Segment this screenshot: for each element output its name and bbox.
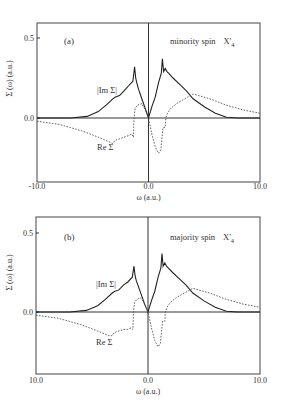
x-tick-label: 10.0 [253, 182, 267, 191]
state-subscript: 4 [231, 237, 235, 244]
x-tick-label: 10.0 [29, 376, 43, 385]
x-tick-label: 10.0 [253, 376, 267, 385]
im-sigma-label: |Im Σ| [97, 85, 117, 95]
x-tick-label: -10.0 [29, 182, 46, 191]
spin-type: minority spin [170, 36, 216, 46]
y-tick-label: 0.5 [24, 34, 34, 43]
y-tick-label: 0.0 [23, 308, 33, 317]
x-axis-label: ω (a.u.) [136, 387, 160, 396]
x-tick-label: 0.0 [143, 376, 153, 385]
state-subscript: 4 [231, 41, 235, 48]
im-sigma-label: |Im Σ| [96, 279, 116, 289]
panel-label: (a) [64, 36, 74, 46]
panel-a: 0.50.0-10.00.010.0ω (a.u.)Σ (ω) (a.u.)(a… [5, 23, 267, 202]
panel-b: 0.50.010.00.010.0ω (a.u.)Σ (ω) (a.u.)(b)… [5, 217, 267, 396]
y-axis-label: Σ (ω) (a.u.) [5, 60, 14, 96]
panel-label: (b) [64, 232, 75, 242]
re-sigma-label: Re Σ [96, 337, 113, 347]
spin-annotation: majority spinX'4 [170, 232, 235, 244]
y-tick-label: 0.5 [23, 229, 33, 238]
spin-type: majority spin [170, 232, 216, 242]
re-sigma-label: Re Σ [97, 142, 114, 152]
spin-annotation: minority spinX'4 [170, 36, 235, 48]
y-axis-label: Σ (ω) (a.u.) [5, 254, 14, 290]
x-axis-label: ω (a.u.) [136, 193, 160, 202]
y-tick-label: 0.0 [24, 114, 34, 123]
x-tick-label: 0.0 [144, 182, 154, 191]
figure: 0.50.0-10.00.010.0ω (a.u.)Σ (ω) (a.u.)(a… [0, 0, 284, 412]
